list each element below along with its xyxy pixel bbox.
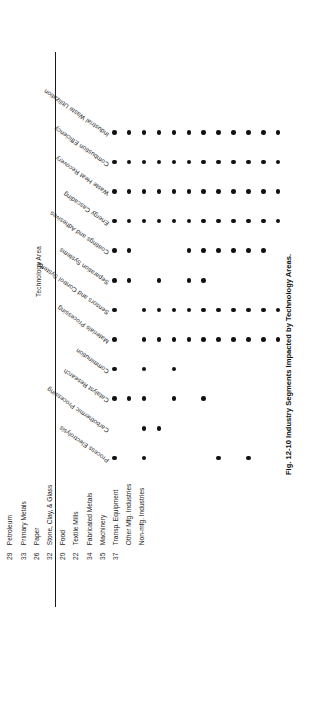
matrix-row-dots xyxy=(112,333,292,347)
impact-dot xyxy=(231,219,236,224)
impact-empty xyxy=(261,278,266,283)
matrix-row-dots xyxy=(112,452,292,466)
legend-sic-code: 29 xyxy=(6,547,13,560)
legend-industry-name: Non-mfg. Industries xyxy=(138,488,145,546)
impact-empty xyxy=(187,367,192,372)
legend-industry-name: Primary Metals xyxy=(20,501,27,545)
impact-dot xyxy=(187,160,192,165)
legend-sic-code: 32 xyxy=(46,547,53,560)
impact-dot xyxy=(157,278,162,283)
matrix-row: Industrial Waste Utilization xyxy=(0,126,322,140)
legend-sic-code: 22 xyxy=(72,547,79,560)
impact-dot xyxy=(127,396,132,401)
legend-industry-name: Petroleum xyxy=(6,515,13,545)
impact-dot xyxy=(112,219,117,224)
matrix-row: Process Electrolysis xyxy=(0,452,322,466)
impact-dot xyxy=(187,130,192,135)
matrix-row-dots xyxy=(112,392,292,406)
impact-dot xyxy=(246,160,251,165)
figure-page: Technology Area Industrial Waste Utiliza… xyxy=(0,0,322,720)
impact-empty xyxy=(276,396,281,401)
impact-empty xyxy=(201,456,206,461)
impact-dot xyxy=(231,337,236,342)
impact-dot xyxy=(201,396,206,401)
impact-empty xyxy=(142,248,147,253)
impact-dot xyxy=(246,248,251,253)
impact-empty xyxy=(231,278,236,283)
impact-dot xyxy=(201,248,206,253)
impact-empty xyxy=(246,426,251,431)
legend-sic-code: 37 xyxy=(112,547,119,560)
impact-empty xyxy=(276,426,281,431)
legend-sic-code: 33 xyxy=(20,547,27,560)
impact-dot xyxy=(216,189,221,194)
legend-industry-name: Transp. Equipment xyxy=(112,490,119,545)
impact-dot xyxy=(142,456,147,461)
matrix-row-dots xyxy=(112,156,292,170)
impact-dot xyxy=(157,130,162,135)
matrix-row-dots xyxy=(112,274,292,288)
impact-dot xyxy=(142,396,147,401)
impact-dot xyxy=(157,426,162,431)
impact-empty xyxy=(276,278,281,283)
impact-empty xyxy=(127,367,132,372)
impact-dot xyxy=(142,426,147,431)
matrix-row: Energy Cascading xyxy=(0,215,322,229)
impact-dot xyxy=(157,308,162,313)
impact-empty xyxy=(127,456,132,461)
impact-dot xyxy=(127,160,132,165)
impact-empty xyxy=(157,456,162,461)
impact-dot xyxy=(246,456,251,461)
impact-empty xyxy=(172,426,177,431)
impact-dot xyxy=(246,219,251,224)
legend-sic-code: 26 xyxy=(33,547,40,560)
impact-dot xyxy=(216,337,221,342)
impact-dot xyxy=(201,219,206,224)
impact-dot xyxy=(276,130,281,135)
impact-dot xyxy=(231,160,236,165)
impact-empty xyxy=(261,426,266,431)
matrix-row: Waste Heat Recovery xyxy=(0,185,322,199)
impact-dot xyxy=(216,130,221,135)
legend-industry-name: Fabricated Metals xyxy=(86,493,93,545)
impact-empty xyxy=(261,367,266,372)
figure-caption: Fig. 12-10 Industry Segments Impacted by… xyxy=(284,245,293,485)
impact-dot xyxy=(112,308,117,313)
impact-dot xyxy=(261,219,266,224)
impact-empty xyxy=(172,248,177,253)
legend-industry-name: Other Mfg. Industries xyxy=(125,484,132,546)
impact-dot xyxy=(142,337,147,342)
impact-dot xyxy=(157,160,162,165)
matrix-row: Carbothermic Processing xyxy=(0,422,322,436)
matrix-row: Sensors and Control Systems xyxy=(0,304,322,318)
impact-dot xyxy=(231,248,236,253)
impact-dot xyxy=(201,160,206,165)
impact-dot xyxy=(231,130,236,135)
impact-dot xyxy=(201,308,206,313)
impact-dot xyxy=(127,130,132,135)
impact-dot xyxy=(172,219,177,224)
impact-dot xyxy=(112,248,117,253)
impact-dot xyxy=(276,160,281,165)
impact-dot xyxy=(216,219,221,224)
impact-empty xyxy=(142,278,147,283)
impact-dot xyxy=(261,160,266,165)
impact-dot xyxy=(142,130,147,135)
impact-dot xyxy=(216,456,221,461)
impact-empty xyxy=(231,456,236,461)
impact-dot xyxy=(127,278,132,283)
impact-dot xyxy=(157,189,162,194)
matrix-row: Materials Processing xyxy=(0,333,322,347)
matrix-row-dots xyxy=(112,363,292,377)
impact-dot xyxy=(142,367,147,372)
impact-dot xyxy=(172,337,177,342)
impact-dot xyxy=(157,219,162,224)
impact-empty xyxy=(187,426,192,431)
impact-empty xyxy=(157,248,162,253)
impact-dot xyxy=(261,248,266,253)
impact-empty xyxy=(276,367,281,372)
impact-empty xyxy=(157,396,162,401)
impact-dot xyxy=(276,308,281,313)
matrix-row-dots xyxy=(112,422,292,436)
matrix-row-dots xyxy=(112,215,292,229)
